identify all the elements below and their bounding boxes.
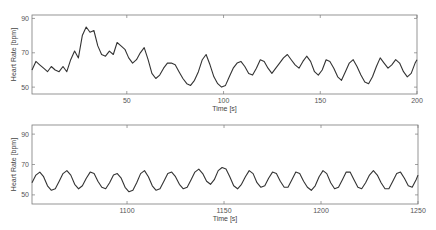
x-axis-label: Time [s] [213,215,238,223]
x-tick-label: 1200 [313,207,329,214]
x-tick-label: 1150 [216,207,231,214]
y-axis-label: Heart Rate [bpm] [10,28,18,81]
x-tick-label: 200 [411,97,423,104]
x-tick-label: 100 [218,97,230,104]
y-axis-label: Heart Rate [bpm] [10,138,18,191]
y-tick-label: 50 [21,84,29,91]
x-axis-label: Time [s] [212,105,237,113]
x-tick-label: 50 [123,97,131,104]
x-axis-ticks: 50100150200 [123,15,423,104]
heart-rate-line [32,168,418,192]
top-panel: 507090 50100150200 Time [s] Heart Rate [… [10,15,423,113]
x-tick-label: 1100 [120,207,135,214]
figure: 507090 50100150200 Time [s] Heart Rate [… [0,0,436,230]
y-tick-label: 90 [21,131,29,138]
y-tick-label: 70 [21,49,29,56]
bottom-panel: 507090 1100115012001250 Time [s] Heart R… [10,125,426,223]
x-tick-label: 150 [314,97,326,104]
plot-frame [32,125,418,204]
x-axis-ticks: 1100115012001250 [120,125,426,214]
plot-frame [32,15,417,94]
y-tick-label: 90 [21,15,29,22]
y-tick-label: 50 [21,191,29,198]
x-tick-label: 1250 [410,207,426,214]
y-tick-label: 70 [21,161,29,168]
heart-rate-line [32,27,417,87]
y-axis-ticks: 507090 [21,131,418,199]
y-axis-ticks: 507090 [21,15,417,91]
